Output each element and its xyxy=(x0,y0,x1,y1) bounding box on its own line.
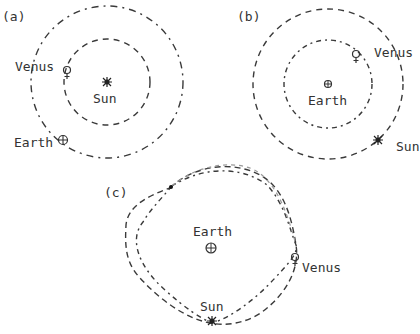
venus-label-b: Venus xyxy=(374,46,413,59)
venus-label-c: Venus xyxy=(302,261,341,274)
sun-label-a: Sun xyxy=(93,92,116,105)
venus-icon xyxy=(353,51,360,64)
crossing-point-icon xyxy=(169,185,173,189)
sun-icon xyxy=(373,135,383,145)
panel-a-label: (a) xyxy=(2,10,25,23)
earth-label-c: Earth xyxy=(193,225,232,238)
earth-label-a: Earth xyxy=(14,136,53,149)
panel-b-drawing xyxy=(253,9,403,159)
panel-a-drawing xyxy=(31,6,183,158)
venus-icon xyxy=(292,254,299,267)
venus-icon xyxy=(64,67,71,80)
panel-b-label: (b) xyxy=(237,10,260,23)
panel-c-label: (c) xyxy=(104,186,127,199)
sun-icon xyxy=(102,77,112,87)
earth-label-b: Earth xyxy=(308,94,347,107)
sun-label-b: Sun xyxy=(396,140,419,153)
sun-label-c: Sun xyxy=(200,300,223,313)
earth-icon xyxy=(325,81,332,88)
diagram-canvas xyxy=(0,0,420,334)
venus-label-a: Venus xyxy=(15,60,54,73)
sun-icon xyxy=(207,316,217,326)
earth-icon xyxy=(59,136,68,145)
earth-icon xyxy=(206,243,216,253)
venus-loop-light-c xyxy=(172,165,296,245)
